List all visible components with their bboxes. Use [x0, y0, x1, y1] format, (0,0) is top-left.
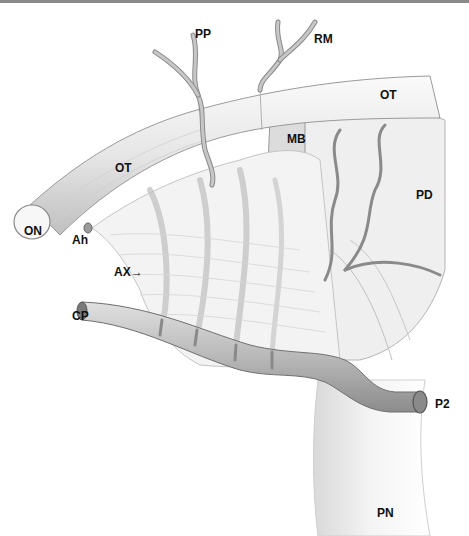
label-ax: AX→ — [114, 266, 143, 278]
label-on: ON — [24, 225, 42, 237]
label-pp: PP — [195, 28, 211, 40]
label-p2: P2 — [435, 398, 450, 410]
label-rm: RM — [314, 33, 333, 45]
label-pn: PN — [377, 507, 394, 519]
anatomy-illustration — [0, 0, 469, 536]
label-mb: MB — [287, 133, 306, 145]
label-ot-right: OT — [380, 89, 397, 101]
label-ot-left: OT — [115, 162, 132, 174]
label-pd: PD — [416, 189, 433, 201]
label-ah: Ah — [72, 234, 88, 246]
ah-vessel-end — [84, 223, 92, 233]
label-cp: CP — [72, 310, 89, 322]
